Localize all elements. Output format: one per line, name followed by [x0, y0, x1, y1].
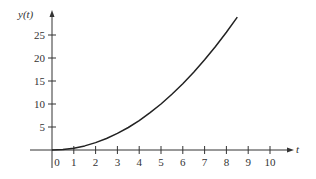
y-tick-label: 10 [34, 98, 46, 110]
x-tick-label: 9 [245, 156, 251, 168]
series-line [52, 17, 237, 150]
axes [30, 10, 294, 168]
x-tick-label: 2 [93, 156, 99, 168]
y-tick-label: 15 [34, 75, 46, 87]
x-tick-label: 6 [180, 156, 186, 168]
x-axis-label: t [296, 143, 300, 155]
y-tick-label: 5 [40, 121, 46, 133]
y-tick-label: 25 [34, 29, 46, 41]
y-tick-label: 20 [34, 52, 46, 64]
x-tick-label: 0 [54, 156, 60, 168]
x-tick-label: 5 [158, 156, 164, 168]
x-tick-label: 1 [71, 156, 77, 168]
x-axis-arrow-icon [287, 148, 294, 153]
y-axis-ticks: 510152025 [34, 29, 56, 133]
y-axis-label: y(t) [17, 8, 34, 21]
x-tick-label: 10 [265, 156, 277, 168]
x-axis-ticks: 012345678910 [54, 146, 276, 168]
x-tick-label: 3 [115, 156, 121, 168]
chart-canvas: 012345678910 510152025 t y(t) [0, 0, 316, 179]
x-tick-label: 7 [202, 156, 208, 168]
y-axis-arrow-icon [50, 10, 55, 17]
x-tick-label: 4 [136, 156, 142, 168]
x-tick-label: 8 [224, 156, 230, 168]
data-curve [52, 17, 237, 150]
